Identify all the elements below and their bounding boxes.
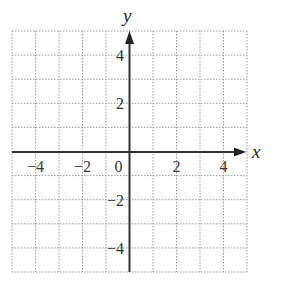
x-tick-label: −4 bbox=[27, 158, 44, 175]
y-tick-label: −2 bbox=[107, 192, 124, 209]
x-axis-label: x bbox=[251, 141, 261, 162]
x-tick-label: −2 bbox=[74, 158, 91, 175]
y-axis-label: y bbox=[121, 5, 132, 26]
y-tick-label: 4 bbox=[116, 47, 124, 64]
x-tick-label: 4 bbox=[220, 158, 228, 175]
x-tick-label: 0 bbox=[115, 158, 123, 175]
y-axis-arrow-icon bbox=[125, 31, 134, 44]
y-tick-label: −4 bbox=[107, 240, 124, 257]
coordinate-plane: x y −4−2024 42−2−4 bbox=[0, 0, 285, 286]
y-tick-label: 2 bbox=[116, 95, 124, 112]
x-tick-label: 2 bbox=[173, 158, 181, 175]
x-axis-arrow-icon bbox=[234, 148, 246, 157]
x-tick-labels: −4−2024 bbox=[27, 158, 228, 175]
axes bbox=[12, 31, 246, 272]
